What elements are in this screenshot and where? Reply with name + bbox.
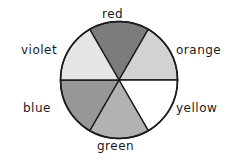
label-blue: blue — [23, 102, 51, 114]
label-violet: violet — [21, 44, 57, 56]
label-orange: orange — [176, 44, 221, 56]
label-green: green — [97, 140, 134, 152]
label-red: red — [102, 8, 123, 20]
label-yellow: yellow — [176, 102, 217, 114]
